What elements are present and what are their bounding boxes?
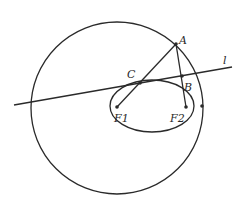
point-c [138,81,142,85]
label-l: l [223,54,227,67]
point-f1 [115,105,119,109]
diagram-canvas: A l C B F1 F2 [0,0,243,201]
point-a [174,42,178,46]
point-f2 [184,105,188,109]
label-c: C [127,68,136,81]
label-b: B [183,81,192,94]
label-f1: F1 [113,112,129,125]
segment-a-f1 [117,44,176,107]
point-on-circle [200,104,204,108]
geometry-figure: A l C B F1 F2 [0,0,243,201]
label-f2: F2 [169,112,185,125]
label-a: A [178,34,187,47]
point-b [180,74,184,78]
line-l [14,67,232,105]
